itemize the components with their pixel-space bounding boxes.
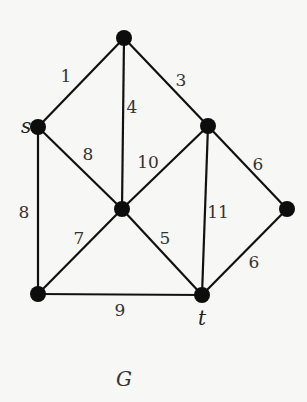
graph-caption: G [116,367,132,391]
node-label-t: t [198,306,207,330]
edge-c-t [122,209,202,295]
edge-weight-label: 8 [83,144,94,164]
node-u [200,118,216,134]
edge-weight-label: 8 [19,202,30,222]
edge-top-s [38,38,124,127]
node-s [30,119,46,135]
edge-u-r [208,126,287,209]
node-c [114,201,130,217]
edge-s-c [38,127,122,209]
edge-top-c [122,38,124,209]
node-bl [30,286,46,302]
node-r [279,201,295,217]
edge-weight-label: 5 [160,228,171,248]
edge-bl-t [38,294,202,295]
graph-diagram: 14388101167569 st G [0,0,307,402]
edge-weight-label: 7 [74,228,85,248]
edge-weight-label: 6 [253,154,264,174]
node-labels: st [21,114,207,330]
node-t [194,287,210,303]
node-label-s: s [21,114,31,138]
edge-c-bl [38,209,122,294]
edge-weights: 14388101167569 [19,66,264,320]
edge-weight-label: 1 [61,66,72,86]
node-top [116,30,132,46]
edge-weight-label: 11 [207,202,229,222]
edge-weight-label: 9 [115,300,126,320]
edge-weight-label: 6 [249,252,260,272]
edge-u-c [122,126,208,209]
edge-weight-label: 3 [176,70,187,90]
edge-weight-label: 4 [127,97,138,117]
edge-weight-label: 10 [137,152,159,172]
